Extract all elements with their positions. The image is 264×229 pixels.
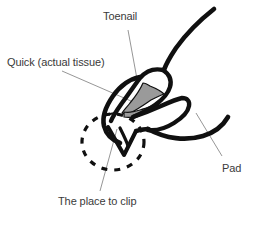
label-pad: Pad (222, 162, 241, 174)
label-quick: Quick (actual tissue) (7, 56, 105, 68)
leader-line-toenail (128, 30, 137, 79)
leg-curve (164, 9, 214, 70)
label-place-to-clip: The place to clip (58, 195, 136, 207)
toenail-accent-stroke (110, 113, 119, 114)
label-toenail: Toenail (103, 10, 137, 22)
toenail-pad-junction (136, 129, 148, 131)
figure-container: Toenail Quick (actual tissue) The place … (0, 0, 264, 229)
toenail-anatomy-diagram: Toenail Quick (actual tissue) The place … (0, 0, 264, 229)
